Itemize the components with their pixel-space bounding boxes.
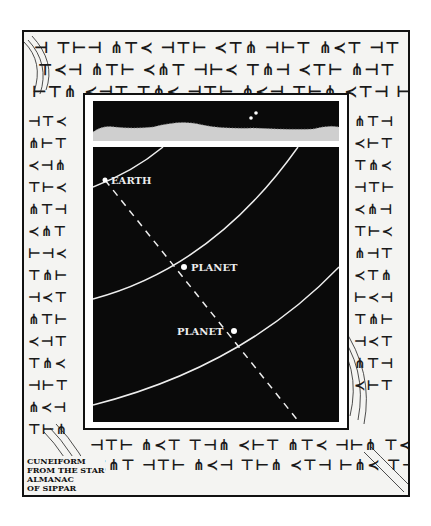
astronomy-panel: EARTH PLANET PLANET bbox=[83, 93, 349, 430]
label-planet-far: PLANET bbox=[177, 326, 224, 337]
star-icon bbox=[249, 116, 253, 120]
label-earth: EARTH bbox=[111, 175, 151, 186]
orbit-diagram: EARTH PLANET PLANET bbox=[93, 147, 339, 422]
orbit-inner-planet bbox=[93, 147, 298, 299]
earth-point bbox=[103, 178, 108, 183]
label-planet-near: PLANET bbox=[191, 262, 238, 273]
figure-caption: CUNEIFORM FROM THE STAR ALMANAC OF SIPPA… bbox=[26, 456, 105, 494]
planet-point-near bbox=[181, 264, 187, 270]
horizon-sky-strip bbox=[93, 101, 339, 141]
planet-point-far bbox=[231, 328, 237, 334]
star-icon bbox=[254, 111, 258, 115]
sightline-dashed bbox=[105, 180, 299, 422]
mountain-horizon bbox=[93, 122, 339, 141]
